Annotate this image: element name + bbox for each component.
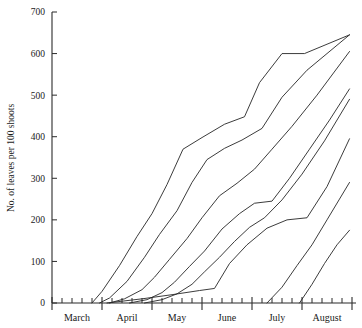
x-month-labels: MarchAprilMayJuneJulyAugust (64, 312, 342, 323)
y-tick-label-200: 200 (31, 215, 46, 225)
y-tick-labels: 0100200300400500600700 (31, 7, 46, 308)
series-line-6 (107, 139, 350, 303)
y-tick-label-100: 100 (31, 257, 46, 267)
x-label-july: July (269, 312, 286, 323)
y-tick-label-500: 500 (31, 91, 46, 101)
line-chart-plot: 0100200300400500600700 No. of leaves per… (0, 0, 362, 328)
x-label-june: June (218, 312, 237, 323)
y-axis-title: No. of leaves per 100 shoots (6, 104, 16, 212)
x-label-august: August (313, 312, 342, 323)
y-tick-label-700: 700 (31, 7, 46, 17)
y-tick-label-400: 400 (31, 132, 46, 142)
y-axis-group: 0100200300400500600700 No. of leaves per… (6, 7, 57, 308)
series-line-8 (300, 230, 350, 303)
series-line-3 (110, 51, 350, 303)
series-line-7 (267, 182, 350, 303)
series-line-2 (100, 35, 350, 303)
series-line-1 (92, 35, 350, 303)
series-line-4 (130, 89, 350, 303)
x-label-march: March (64, 312, 90, 323)
x-label-may: May (168, 312, 186, 323)
y-tick-marks (52, 12, 57, 303)
x-axis-group: MarchAprilMayJuneJulyAugust (52, 297, 356, 323)
chart-figure: 0100200300400500600700 No. of leaves per… (0, 0, 362, 328)
data-series-group (92, 35, 350, 303)
y-tick-label-600: 600 (31, 49, 46, 59)
y-tick-label-300: 300 (31, 174, 46, 184)
x-label-april: April (116, 312, 137, 323)
y-tick-label-0: 0 (40, 298, 45, 308)
